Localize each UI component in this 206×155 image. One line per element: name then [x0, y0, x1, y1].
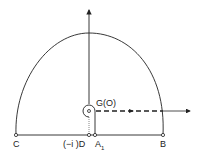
label-b: B: [160, 140, 166, 149]
point-c-marker: [14, 133, 17, 136]
diagram-canvas: G(O) C (−i )D A1 B: [0, 0, 206, 155]
label-g-origin: G(O): [96, 99, 116, 108]
origin-point: [88, 110, 91, 113]
label-a1: A1: [95, 140, 104, 151]
keyhole-circle: [83, 105, 95, 117]
outer-arc: [16, 33, 163, 135]
label-a1-subscript: 1: [101, 145, 104, 151]
label-c: C: [13, 140, 20, 149]
point-b-marker: [161, 133, 164, 136]
contour-diagram: [0, 0, 206, 155]
label-d: (−i )D: [63, 140, 85, 149]
point-d-marker: [87, 133, 90, 136]
branch-cut-mid-arrow: [129, 109, 134, 113]
point-a1-marker: [93, 133, 96, 136]
